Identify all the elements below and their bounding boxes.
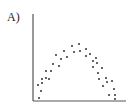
data-point: [60, 58, 62, 60]
scatter-plot: [0, 0, 132, 109]
data-point: [55, 54, 57, 56]
data-point: [89, 53, 91, 55]
data-point: [79, 50, 81, 52]
data-point: [98, 78, 100, 80]
data-point: [45, 77, 47, 79]
data-point: [114, 98, 116, 100]
data-point: [97, 72, 99, 74]
data-point: [113, 88, 115, 90]
data-point: [73, 51, 75, 53]
data-point: [52, 63, 54, 65]
data-point: [111, 80, 113, 82]
data-point: [96, 62, 98, 64]
data-point: [85, 48, 87, 50]
data-point: [48, 78, 50, 80]
data-point: [101, 67, 103, 69]
data-point: [41, 82, 43, 84]
data-point: [63, 50, 65, 52]
data-point: [66, 56, 68, 58]
data-point: [108, 94, 110, 96]
data-point: [106, 81, 108, 83]
data-point: [102, 85, 104, 87]
data-point: [95, 57, 97, 59]
data-point: [105, 77, 107, 79]
data-point: [114, 94, 116, 96]
data-points: [37, 43, 116, 100]
data-point: [58, 65, 60, 67]
data-point: [92, 66, 94, 68]
data-point: [50, 70, 52, 72]
data-point: [37, 84, 39, 86]
data-point: [78, 43, 80, 45]
data-point: [71, 45, 73, 47]
data-point: [45, 70, 47, 72]
data-point: [85, 55, 87, 57]
data-point: [38, 97, 40, 99]
data-point: [41, 78, 43, 80]
data-point: [92, 60, 94, 62]
data-point: [40, 90, 42, 92]
